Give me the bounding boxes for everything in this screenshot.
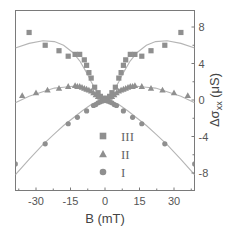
square-marker (121, 63, 126, 68)
square-marker (56, 48, 61, 53)
square-marker (84, 63, 89, 68)
circle-marker (139, 121, 144, 126)
x-tick-label: -15 (63, 195, 79, 207)
circle-marker (75, 115, 80, 120)
y-axis-title-unit: (μS) (207, 73, 222, 101)
triangle-marker (185, 92, 191, 98)
circle-marker (43, 141, 48, 146)
data-points (13, 30, 198, 167)
square-marker (178, 30, 183, 35)
square-marker (82, 57, 87, 62)
x-tick-label: 30 (168, 195, 180, 207)
triangle-marker (33, 90, 39, 96)
circle-marker (66, 121, 71, 126)
triangle-marker (19, 92, 25, 98)
square-marker (100, 133, 107, 140)
y-tick-label: 0 (199, 94, 205, 106)
circle-marker (130, 115, 135, 120)
square-marker (27, 30, 32, 35)
x-tick-label: 0 (102, 195, 108, 207)
circle-marker (114, 103, 119, 108)
triangle-marker (99, 150, 107, 157)
triangle-marker (171, 90, 177, 96)
legend: IIIIII (99, 129, 134, 180)
square-marker (86, 70, 91, 75)
y-axis-title-main: Δσ (207, 110, 222, 127)
magnetoconductance-chart: -30-1501530 840-4-8 B (mT) Δσxx (μS) III… (0, 0, 229, 231)
square-marker (148, 48, 153, 53)
legend-label: II (121, 147, 130, 162)
legend-label: III (121, 129, 134, 144)
legend-label: I (121, 165, 125, 180)
svg-text:Δσxx (μS): Δσxx (μS) (207, 73, 224, 127)
circle-marker (121, 108, 126, 113)
square-marker (73, 52, 78, 57)
square-marker (128, 52, 133, 57)
square-marker (43, 43, 48, 48)
x-tick-label: 15 (133, 195, 145, 207)
square-marker (162, 43, 167, 48)
circle-marker (100, 169, 107, 176)
circle-marker (162, 141, 167, 146)
square-marker (92, 85, 97, 90)
square-marker (119, 70, 124, 75)
square-marker (66, 54, 71, 59)
circle-marker (84, 108, 89, 113)
square-marker (116, 76, 121, 81)
square-marker (113, 85, 118, 90)
fit-curve (15, 41, 194, 100)
x-tick-label: -30 (28, 195, 44, 207)
y-tick-label: -8 (199, 167, 209, 179)
y-tick-label: 8 (199, 21, 205, 33)
square-marker (132, 52, 137, 57)
square-marker (77, 52, 82, 57)
y-tick-label: 4 (199, 58, 205, 70)
x-axis-title: B (mT) (85, 211, 125, 226)
y-tick-label: -4 (199, 131, 209, 143)
square-marker (139, 54, 144, 59)
square-marker (89, 76, 94, 81)
y-axis-title: Δσxx (μS) (207, 73, 224, 127)
square-marker (123, 57, 128, 62)
